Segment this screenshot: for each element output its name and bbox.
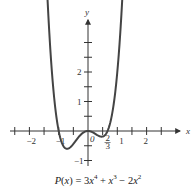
tick-label-origin: 0 <box>90 134 95 144</box>
function-caption: P(x) = 3x4 + x3 − 2x2 <box>0 173 196 186</box>
tick-label-frac-den: 3 <box>106 141 111 151</box>
y-axis-label: y <box>84 7 89 17</box>
exp-2: 2 <box>138 173 142 181</box>
exp-3: 3 <box>113 173 117 181</box>
x-tick-label: 2 <box>144 136 149 146</box>
caption-p: P <box>55 175 61 186</box>
y-tick-label: 1 <box>77 97 82 107</box>
axes: xy <box>10 7 190 166</box>
x-tick-label: 1 <box>119 136 124 146</box>
x-axis-label: x <box>185 126 190 136</box>
y-tick-label: 2 <box>77 67 82 77</box>
exp-4: 4 <box>94 173 98 181</box>
polynomial-graph: xy −2−102312−112 <box>0 0 196 175</box>
y-tick-label: −1 <box>74 156 84 166</box>
polynomial-curve <box>38 0 130 149</box>
x-tick-label: −2 <box>26 136 36 146</box>
